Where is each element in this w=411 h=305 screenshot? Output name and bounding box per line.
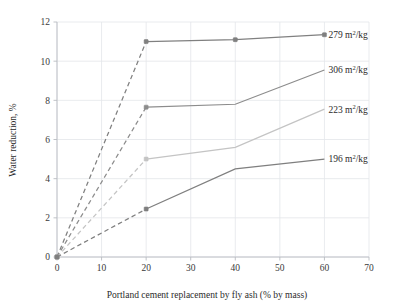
y-tick-label: 12 [41, 17, 51, 27]
x-tick-label: 20 [141, 263, 151, 273]
data-point-marker [55, 255, 59, 259]
x-axis-title: Portland cement replacement by fly ash (… [107, 290, 308, 301]
y-tick-label: 4 [45, 174, 50, 184]
chart-background [0, 0, 411, 305]
y-tick-label: 8 [45, 96, 50, 106]
series-label-279: 279 m2/kg [328, 29, 368, 40]
x-tick-label: 50 [275, 263, 285, 273]
series-label-196: 196 m2/kg [328, 153, 368, 164]
x-tick-label: 10 [97, 263, 107, 273]
x-tick-label: 30 [186, 263, 196, 273]
data-point-marker [144, 207, 148, 211]
y-axis-title: Water reduction, % [8, 103, 18, 176]
x-tick-label: 0 [55, 263, 60, 273]
series-label-306: 306 m2/kg [328, 64, 368, 75]
water-reduction-line-chart: 024681012 010203040506070 279 m2/kg306 m… [0, 0, 411, 305]
data-point-marker [322, 33, 326, 37]
y-tick-label: 10 [41, 57, 51, 67]
y-tick-label: 0 [45, 252, 50, 262]
x-tick-label: 70 [364, 263, 374, 273]
chart-container: 024681012 010203040506070 279 m2/kg306 m… [0, 0, 411, 305]
data-point-marker [144, 157, 148, 161]
series-label-223: 223 m2/kg [328, 103, 368, 114]
x-tick-label: 60 [320, 263, 330, 273]
data-point-marker [233, 38, 237, 42]
data-point-marker [144, 40, 148, 44]
y-tick-label: 6 [45, 135, 50, 145]
y-tick-label: 2 [45, 213, 50, 223]
data-point-marker [144, 105, 148, 109]
x-tick-label: 40 [231, 263, 241, 273]
